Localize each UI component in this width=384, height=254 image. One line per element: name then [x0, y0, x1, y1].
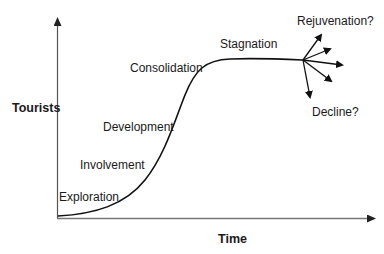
diagram-canvas — [0, 0, 384, 254]
outcome-arrows — [303, 35, 342, 97]
y-axis-label: Tourists — [12, 101, 60, 115]
x-axis-label: Time — [218, 232, 247, 246]
arrow-decline-steep — [303, 60, 310, 97]
stage-label-exploration: Exploration — [59, 190, 119, 204]
outcome-label-rejuvenation: Rejuvenation? — [297, 14, 374, 28]
stage-label-stagnation: Stagnation — [220, 37, 277, 51]
stage-label-consolidation: Consolidation — [130, 61, 203, 75]
outcome-label-decline: Decline? — [312, 105, 359, 119]
stage-label-involvement: Involvement — [80, 158, 145, 172]
stage-label-development: Development — [103, 120, 174, 134]
